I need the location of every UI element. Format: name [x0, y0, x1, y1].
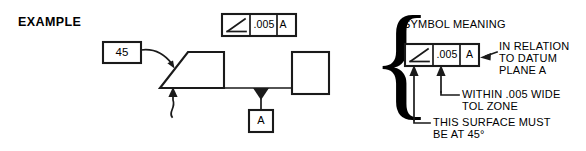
angle-callout-leader — [141, 50, 175, 69]
leader-arrowhead — [167, 61, 174, 69]
fcf-datum-value: A — [279, 18, 286, 30]
tolerance-note-elbow — [441, 92, 459, 95]
fcf-tolerance-value: .005 — [254, 18, 275, 30]
datum-note-line-3: PLANE A — [499, 64, 547, 76]
surface-leader — [168, 87, 177, 117]
annotation-datum-note: IN RELATION TO DATUM PLANE A — [480, 40, 569, 76]
datum-note-arrowhead — [480, 53, 491, 61]
datum-note-line-2: TO DATUM — [499, 52, 557, 64]
datum-feature-symbol: A — [249, 88, 273, 132]
symbol-meaning-section: { SYMBOL MEANING .005 A IN RELATION — [371, 0, 569, 140]
symbol-meaning-heading: SYMBOL MEANING — [403, 18, 506, 30]
fcf2-datum-value: A — [466, 48, 473, 60]
gdt-example-figure: EXAMPLE .005 A 45 — [0, 0, 586, 151]
angle-callout-value: 45 — [115, 46, 128, 58]
example-diagram: .005 A 45 — [103, 14, 329, 132]
surface-note-line-2: BE AT 45° — [433, 128, 485, 140]
datum-box-label: A — [257, 114, 265, 126]
page-title: EXAMPLE — [18, 15, 81, 29]
feature-control-frame-example: .005 A — [222, 14, 296, 36]
trapezoid-part — [160, 52, 224, 88]
datum-note-line-1: IN RELATION — [499, 40, 569, 52]
tolerance-note-line-2: TOL ZONE — [462, 100, 518, 112]
angle-callout: 45 — [103, 42, 141, 63]
surface-note-line-1: THIS SURFACE MUST — [433, 116, 551, 128]
figure-canvas: EXAMPLE .005 A 45 — [0, 0, 586, 151]
trapezoid-outline — [160, 52, 224, 88]
rectangle-part — [292, 52, 329, 94]
feature-control-frame-meaning: .005 A — [405, 44, 479, 66]
tolerance-note-line-1: WITHIN .005 WIDE — [462, 88, 561, 100]
fcf2-tolerance-value: .005 — [437, 48, 458, 60]
